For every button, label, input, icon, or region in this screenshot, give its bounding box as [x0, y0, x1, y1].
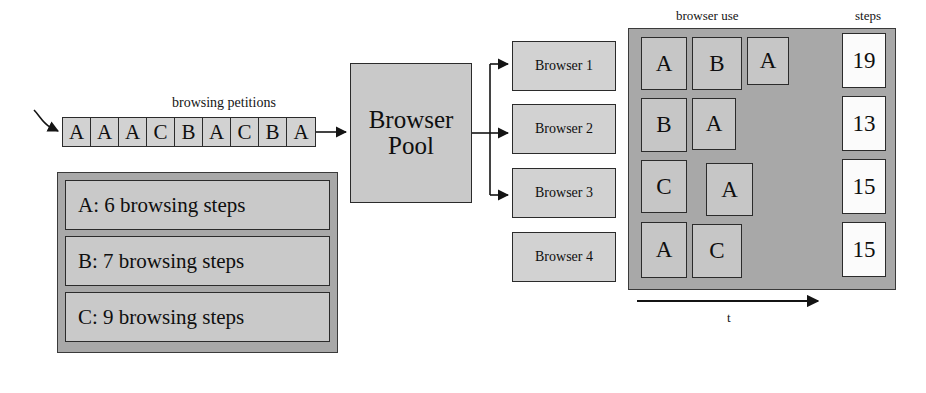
diagram-canvas: browsing petitions A A A C B A C B A A: …: [0, 0, 926, 393]
steps-cell: 15: [842, 222, 886, 277]
browser-box-1[interactable]: Browser 1: [512, 41, 616, 91]
petition-cell: A: [91, 118, 119, 146]
browser-pool-box: Browser Pool: [350, 63, 472, 203]
usage-cell: A: [641, 222, 687, 278]
browser-box-4[interactable]: Browser 4: [512, 232, 616, 282]
legend-row: C: 9 browsing steps: [65, 292, 330, 342]
browser-box-3[interactable]: Browser 3: [512, 168, 616, 218]
petition-cell: A: [203, 118, 231, 146]
browser-use-title: browser use: [676, 8, 738, 24]
petition-cell: B: [259, 118, 287, 146]
petition-cell: A: [63, 118, 91, 146]
petition-cell: C: [231, 118, 259, 146]
time-axis-label: t: [727, 310, 731, 326]
usage-cell: A: [706, 163, 753, 216]
steps-cell: 19: [842, 33, 886, 88]
browser-box-label: Browser 3: [535, 186, 593, 201]
browsing-petitions-caption: browsing petitions: [172, 95, 276, 111]
browser-box-label: Browser 1: [535, 59, 593, 74]
inbound-arrow-icon: [34, 110, 58, 131]
petition-sequence-strip: A A A C B A C B A: [62, 117, 316, 147]
petition-cell: C: [147, 118, 175, 146]
petition-cell: A: [287, 118, 315, 146]
usage-cell: C: [692, 224, 742, 278]
browser-pool-line1: Browser: [369, 107, 454, 133]
usage-cell: C: [641, 160, 687, 213]
usage-cell: A: [747, 37, 789, 85]
browser-pool-line2: Pool: [388, 133, 434, 159]
petition-cell: B: [175, 118, 203, 146]
petition-cell: A: [119, 118, 147, 146]
steps-title: steps: [855, 8, 881, 24]
browser-box-label: Browser 2: [535, 122, 593, 137]
cost-legend-panel: A: 6 browsing steps B: 7 browsing steps …: [57, 172, 338, 353]
steps-cell: 15: [842, 159, 886, 214]
usage-cell: B: [692, 37, 742, 90]
legend-row: A: 6 browsing steps: [65, 180, 330, 230]
browser-box-2[interactable]: Browser 2: [512, 104, 616, 154]
browser-box-label: Browser 4: [535, 250, 593, 265]
steps-cell: 13: [842, 96, 886, 151]
legend-row: B: 7 browsing steps: [65, 236, 330, 286]
usage-cell: A: [641, 37, 687, 90]
usage-cell: A: [692, 98, 736, 150]
usage-cell: B: [641, 98, 687, 152]
